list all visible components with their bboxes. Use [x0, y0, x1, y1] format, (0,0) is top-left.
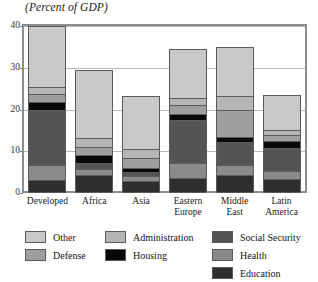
bar-segment-other[interactable]	[75, 70, 113, 138]
legend-item-administration[interactable]: Administration	[105, 231, 194, 243]
bar-segment-education[interactable]	[28, 180, 66, 193]
bar-segment-housing[interactable]	[263, 141, 301, 148]
legend-item-defense[interactable]: Defense	[25, 249, 86, 261]
bar-africa[interactable]	[75, 70, 113, 193]
bar-segment-defense[interactable]	[122, 158, 160, 169]
y-tick-mark	[20, 193, 23, 194]
x-tick-label-line: America	[249, 207, 315, 218]
bar-middle-east[interactable]	[216, 47, 254, 193]
y-tick-mark	[20, 151, 23, 152]
y-tick-mark	[20, 68, 23, 69]
legend-label: Other	[53, 232, 76, 243]
legend-item-education[interactable]: Education	[212, 267, 281, 279]
bar-segment-administration[interactable]	[28, 87, 66, 94]
y-tick-label: 10	[2, 146, 20, 156]
bar-segment-administration[interactable]	[122, 149, 160, 157]
legend-label: Education	[240, 268, 281, 279]
bar-segment-education[interactable]	[122, 181, 160, 193]
bar-eastern-europe[interactable]	[169, 49, 207, 193]
y-tick-label: 40	[2, 21, 20, 31]
legend-label: Defense	[53, 250, 86, 261]
bar-segment-social-security[interactable]	[216, 142, 254, 165]
bar-asia[interactable]	[122, 96, 160, 193]
bar-segment-health[interactable]	[216, 165, 254, 175]
bar-segment-education[interactable]	[263, 179, 301, 193]
legend-swatch-icon	[105, 231, 126, 243]
legend-item-health[interactable]: Health	[212, 249, 267, 261]
legend-swatch-icon	[212, 231, 233, 243]
chart-title: (Percent of GDP)	[25, 1, 108, 13]
bar-developed[interactable]	[28, 26, 66, 193]
y-tick-label: 20	[2, 105, 20, 115]
bar-segment-defense[interactable]	[28, 94, 66, 102]
chart-legend: OtherDefenseAdministrationHousingSocial …	[0, 228, 318, 282]
legend-swatch-icon	[212, 249, 233, 261]
bar-segment-education[interactable]	[216, 175, 254, 193]
bar-segment-defense[interactable]	[216, 110, 254, 137]
bar-segment-health[interactable]	[28, 165, 66, 180]
bar-segment-other[interactable]	[28, 26, 66, 87]
bar-segment-other[interactable]	[122, 96, 160, 149]
y-tick-label: 30	[2, 63, 20, 73]
bar-segment-social-security[interactable]	[28, 110, 66, 166]
bar-segment-defense[interactable]	[169, 105, 207, 114]
legend-swatch-icon	[25, 249, 46, 261]
bar-segment-housing[interactable]	[28, 102, 66, 109]
legend-label: Social Security	[240, 232, 301, 243]
x-tick-label-line: Latin	[249, 196, 315, 207]
legend-label: Administration	[133, 232, 194, 243]
legend-item-social-security[interactable]: Social Security	[212, 231, 301, 243]
bar-segment-health[interactable]	[75, 169, 113, 176]
bar-segment-other[interactable]	[263, 95, 301, 130]
bar-segment-social-security[interactable]	[263, 148, 301, 171]
legend-label: Health	[240, 250, 267, 261]
bar-segment-education[interactable]	[169, 178, 207, 193]
legend-item-other[interactable]: Other	[25, 231, 76, 243]
legend-label: Housing	[133, 250, 167, 261]
y-tick-mark	[20, 26, 23, 27]
bar-segment-education[interactable]	[75, 175, 113, 193]
bar-segment-defense[interactable]	[75, 147, 113, 155]
bar-segment-administration[interactable]	[169, 98, 207, 106]
x-tick-label-latin-america: LatinAmerica	[249, 196, 315, 217]
bar-segment-administration[interactable]	[216, 96, 254, 110]
bar-segment-administration[interactable]	[75, 138, 113, 147]
y-tick-mark	[20, 110, 23, 111]
legend-swatch-icon	[212, 267, 233, 279]
bar-segment-other[interactable]	[216, 47, 254, 96]
legend-swatch-icon	[105, 249, 126, 261]
bar-latin-america[interactable]	[263, 95, 301, 193]
bar-segment-housing[interactable]	[75, 155, 113, 163]
legend-item-housing[interactable]: Housing	[105, 249, 167, 261]
chart-title-text: (Percent of GDP)	[25, 1, 108, 13]
legend-swatch-icon	[25, 231, 46, 243]
bar-segment-health[interactable]	[263, 171, 301, 179]
plot-area	[24, 26, 305, 193]
bar-segment-social-security[interactable]	[169, 120, 207, 164]
bar-segment-other[interactable]	[169, 49, 207, 98]
stacked-bar-chart: (Percent of GDP) 010203040 DevelopedAfri…	[0, 0, 318, 282]
bar-segment-health[interactable]	[169, 163, 207, 178]
